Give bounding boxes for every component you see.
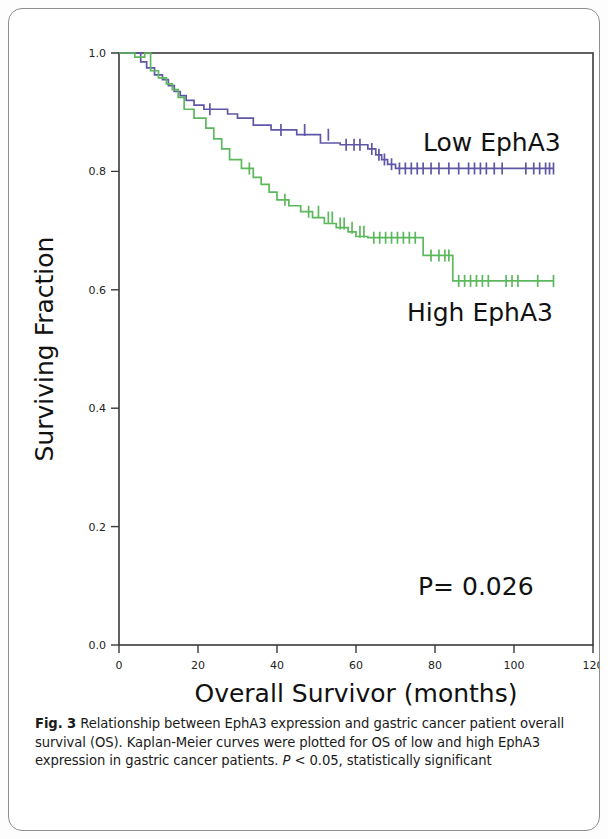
figure-panel: 0.00.20.40.60.81.0 020406080100120 Overa… [8, 8, 600, 831]
y-tick-label: 0.8 [89, 165, 107, 178]
x-axis: 020406080100120 [116, 645, 601, 672]
x-tick-label: 80 [428, 659, 442, 672]
y-axis: 0.00.20.40.60.81.0 [89, 47, 120, 652]
y-axis-title: Surviving Fraction [30, 237, 59, 462]
x-axis-title: Overall Survivor (months) [194, 679, 517, 708]
caption-tail: < 0.05, statistically significant [290, 753, 491, 768]
y-tick-label: 0.6 [89, 284, 107, 297]
figure-caption: Fig. 3 Relationship between EphA3 expres… [35, 715, 583, 771]
y-tick-label: 0.4 [89, 402, 107, 415]
x-tick-label: 60 [349, 659, 363, 672]
x-tick-label: 120 [583, 659, 601, 672]
figure-page: 0.00.20.40.60.81.0 020406080100120 Overa… [0, 0, 608, 839]
x-tick-label: 0 [116, 659, 123, 672]
y-tick-label: 0.0 [89, 639, 107, 652]
chart-svg: 0.00.20.40.60.81.0 020406080100120 Overa… [9, 9, 600, 709]
low-epha3-label: Low EphA3 [423, 128, 561, 157]
x-tick-label: 40 [270, 659, 284, 672]
kaplan-meier-chart: 0.00.20.40.60.81.0 020406080100120 Overa… [9, 9, 600, 709]
caption-figure-number: Fig. 3 [35, 716, 76, 731]
high-epha3-label: High EphA3 [407, 298, 553, 327]
p-value-annotation: P= 0.026 [418, 572, 534, 601]
y-tick-label: 0.2 [89, 521, 107, 534]
x-tick-label: 20 [191, 659, 205, 672]
y-tick-label: 1.0 [89, 47, 107, 60]
x-tick-label: 100 [504, 659, 525, 672]
